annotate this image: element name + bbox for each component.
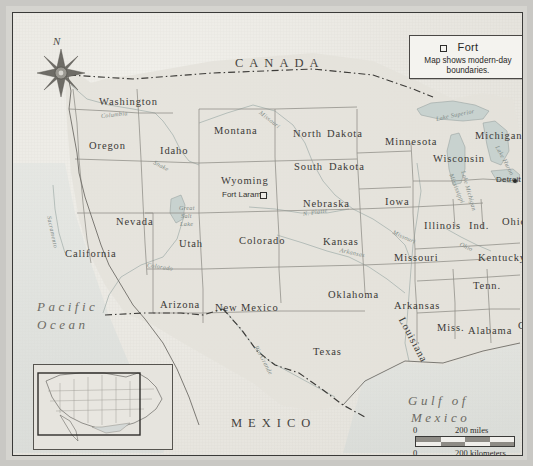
state-label-oregon: Oregon — [89, 141, 126, 152]
state-label-tenn-: Tenn. — [473, 281, 501, 292]
state-label-oklahoma: Oklahoma — [328, 290, 379, 301]
state-label-arkansas: Arkansas — [394, 301, 440, 312]
inset-landmass — [46, 373, 162, 431]
scale-bar-graphic — [415, 436, 515, 447]
state-label-missouri: Missouri — [394, 253, 439, 264]
ocean-label-0: Pacific — [37, 300, 98, 313]
state-label-minnesota: Minnesota — [385, 137, 437, 148]
state-label-north: North — [293, 129, 322, 140]
state-label-nevada: Nevada — [116, 217, 153, 228]
lake-label-2: Lake — [180, 221, 193, 227]
state-label-michigan: Michigan — [475, 131, 522, 142]
state-label-ind-: Ind. — [469, 221, 489, 232]
state-label-dakota: Dakota — [329, 162, 365, 173]
inset-us-outline — [34, 365, 170, 447]
state-label-kentucky: Kentucky — [478, 253, 523, 264]
state-label-texas: Texas — [313, 347, 342, 358]
lake-label-0: Great — [179, 205, 195, 211]
country-label-mexico: MEXICO — [231, 417, 316, 430]
fort-marker-0 — [260, 192, 267, 199]
map-frame: Fort Map shows modern-day boundaries. N — [0, 0, 533, 466]
scale-zero-top: 0 — [413, 425, 417, 435]
state-label-colorado: Colorado — [239, 236, 285, 247]
state-label-wisconsin: Wisconsin — [433, 154, 485, 165]
scale-bar: 0 200 miles 0 200 kilometers — [413, 425, 523, 456]
lake-label-1: Salt — [181, 213, 192, 219]
state-label-ga-: Ga. — [518, 321, 523, 332]
legend-title: Fort — [410, 41, 523, 53]
state-label-alabama: Alabama — [468, 326, 512, 337]
legend-note: Map shows modern-day boundaries. — [413, 56, 523, 76]
state-label-wyoming: Wyoming — [221, 176, 269, 187]
state-label-arizona: Arizona — [160, 300, 200, 311]
state-label-utah: Utah — [179, 239, 203, 250]
state-label-ohio: Ohio — [502, 217, 523, 228]
state-label-south: South — [294, 162, 323, 173]
state-label-montana: Montana — [214, 126, 258, 137]
scale-zero-bottom: 0 — [413, 448, 417, 456]
map-legend[interactable]: Fort Map shows modern-day boundaries. — [409, 35, 523, 79]
city-label-detroit: Detroit — [496, 176, 521, 184]
city-marker-detroit — [513, 179, 517, 183]
state-label-illinois: Illinois — [424, 221, 461, 232]
compass-rose: N — [35, 47, 87, 99]
state-label-dakota: Dakota — [327, 129, 363, 140]
compass-north-label: N — [53, 35, 60, 47]
map-canvas[interactable]: Fort Map shows modern-day boundaries. N — [12, 12, 523, 456]
scale-miles-label: 200 miles — [455, 425, 488, 435]
state-label-iowa: Iowa — [385, 197, 410, 208]
inset-locator-map[interactable] — [33, 364, 173, 450]
state-label-washington: Washington — [99, 97, 158, 108]
compass-star-icon — [35, 47, 87, 99]
ocean-label-3: Mexico — [411, 411, 470, 424]
ocean-label-2: Gulf of — [408, 394, 469, 407]
state-label-new-mexico: New Mexico — [215, 303, 279, 314]
ocean-label-1: Ocean — [37, 318, 88, 331]
country-label-canada: CANADA — [235, 57, 324, 70]
state-label-miss-: Miss. — [437, 323, 465, 334]
scale-km-label: 200 kilometers — [455, 448, 506, 456]
state-label-idaho: Idaho — [160, 146, 188, 157]
state-label-california: California — [65, 249, 117, 260]
